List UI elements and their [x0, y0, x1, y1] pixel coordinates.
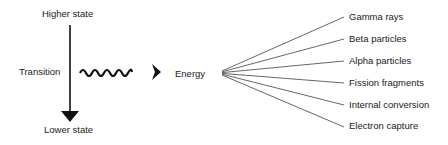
fan-line-electron-capture	[222, 75, 344, 127]
fan-line-fission-fragments	[222, 73, 344, 83]
energy-wave-arrow	[80, 70, 132, 76]
transition-label: Transition	[19, 66, 60, 77]
outcome-label-alpha-particles: Alpha particles	[349, 55, 411, 66]
fan-line-internal-conversion	[222, 74, 344, 105]
higher-state-label: Higher state	[42, 8, 93, 19]
energy-wave-arrowhead	[152, 64, 161, 80]
outcome-label-beta-particles: Beta particles	[349, 33, 407, 44]
outcome-label-internal-conversion: Internal conversion	[349, 99, 429, 110]
outcome-fan	[222, 17, 344, 127]
outcome-label-gamma-rays: Gamma rays	[349, 11, 403, 22]
transition-arrowhead	[61, 111, 79, 122]
lower-state-label: Lower state	[44, 124, 93, 135]
outcome-label-electron-capture: Electron capture	[349, 120, 418, 131]
outcome-label-fission-fragments: Fission fragments	[349, 77, 424, 88]
energy-label: Energy	[175, 68, 205, 79]
